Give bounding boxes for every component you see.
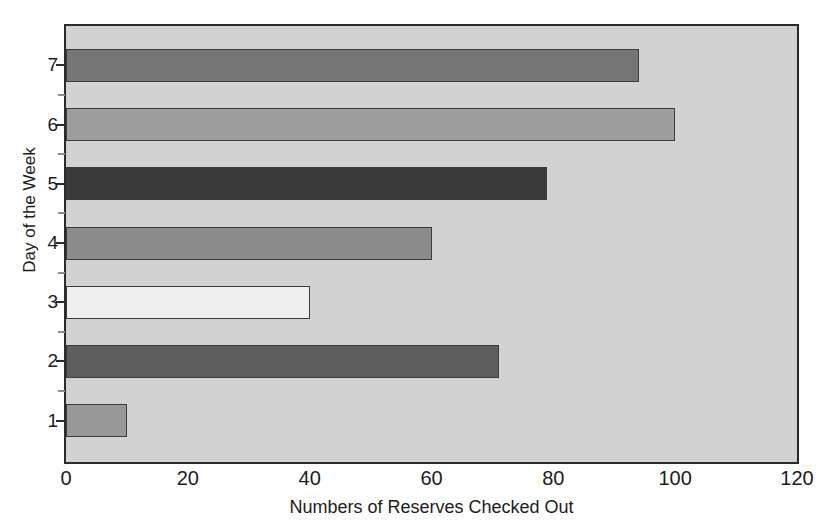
bar-day-1 <box>66 404 127 437</box>
y-tick-minor-5 <box>58 94 65 96</box>
y-tick-minor-3 <box>58 212 65 214</box>
y-axis-title: Day of the Week <box>20 95 40 325</box>
x-axis-title: Numbers of Reserves Checked Out <box>66 497 797 518</box>
x-tick-label-0: 0 <box>36 468 96 488</box>
bar-day-4 <box>66 227 432 260</box>
x-tick-label-120: 120 <box>767 468 827 488</box>
y-tick-minor-2 <box>58 272 65 274</box>
x-tick-label-80: 80 <box>523 468 583 488</box>
y-tick-minor-1 <box>58 331 65 333</box>
y-tick-label-1: 1 <box>28 411 58 430</box>
bar-day-5 <box>66 167 547 200</box>
x-tick-label-40: 40 <box>280 468 340 488</box>
x-tick-label-100: 100 <box>645 468 705 488</box>
y-tick-minor-0 <box>58 390 65 392</box>
y-tick-label-2: 2 <box>28 351 58 370</box>
y-tick-label-7: 7 <box>28 55 58 74</box>
x-tick-label-60: 60 <box>402 468 462 488</box>
x-axis-line <box>66 462 799 464</box>
bar-day-7 <box>66 49 639 82</box>
y-tick-minor-4 <box>58 153 65 155</box>
bar-day-2 <box>66 345 499 378</box>
bar-day-6 <box>66 108 675 141</box>
x-tick-label-20: 20 <box>158 468 218 488</box>
bar-day-3 <box>66 286 310 319</box>
bar-chart-figure: 1234567 020406080100120 Day of the Week … <box>0 0 839 532</box>
